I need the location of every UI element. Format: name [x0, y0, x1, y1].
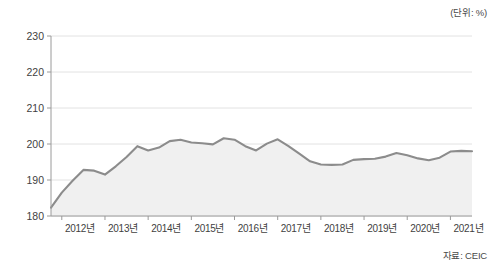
- x-axis-tick-label: 2015년: [194, 223, 224, 234]
- source-label: 자료: CEIC: [443, 248, 487, 262]
- area-fill: [51, 138, 472, 216]
- y-axis-tick-label: 220: [26, 66, 44, 78]
- x-axis-tick-label: 2021년: [454, 223, 484, 234]
- y-axis-tick-label: 190: [26, 174, 44, 186]
- x-axis-tick-label: 2020년: [410, 223, 440, 234]
- y-axis-tick-label: 200: [26, 138, 44, 150]
- x-axis-tick-label: 2014년: [151, 223, 181, 234]
- chart-plot-area: 180190200210220230 2012년2013년2014년2015년2…: [0, 18, 497, 248]
- x-axis-tick-label: 2017년: [281, 223, 311, 234]
- y-axis-tick-label: 180: [26, 210, 44, 222]
- x-axis-tick-label: 2016년: [238, 223, 268, 234]
- y-axis-tick-label: 230: [26, 30, 44, 42]
- y-axis-ticks: 180190200210220230: [26, 30, 51, 222]
- x-axis-tick-label: 2019년: [367, 223, 397, 234]
- x-axis-ticks: 2012년2013년2014년2015년2016년2017년2018년2019년…: [62, 216, 484, 234]
- x-axis-tick-label: 2013년: [108, 223, 138, 234]
- x-axis-tick-label: 2018년: [324, 223, 354, 234]
- unit-label: (단위: %): [450, 5, 487, 19]
- chart-figure: (단위: %) 180190200210220230 2012년2013년201…: [0, 0, 497, 268]
- area-path: [51, 138, 472, 216]
- x-axis-tick-label: 2012년: [65, 223, 95, 234]
- y-axis-tick-label: 210: [26, 102, 44, 114]
